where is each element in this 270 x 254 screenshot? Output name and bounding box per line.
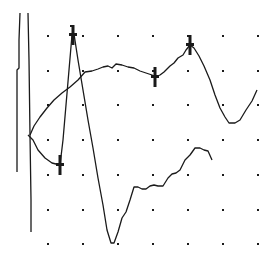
grid-dot xyxy=(222,139,224,141)
grid-dot xyxy=(47,139,49,141)
grid-dot xyxy=(117,243,119,245)
grid-dot xyxy=(47,209,49,211)
grid-dot xyxy=(117,174,119,176)
grid-dot xyxy=(152,243,154,245)
grid-dot xyxy=(222,174,224,176)
grid-dot xyxy=(257,35,259,37)
grid-dot xyxy=(47,35,49,37)
grid-dot xyxy=(117,35,119,37)
grid-dot xyxy=(187,209,189,211)
grid-dot xyxy=(152,139,154,141)
grid-dot xyxy=(117,139,119,141)
grid-dot xyxy=(82,104,84,106)
grid-dot xyxy=(82,139,84,141)
grid-dot xyxy=(117,70,119,72)
grid-dot xyxy=(257,174,259,176)
grid-dot xyxy=(222,35,224,37)
grid-dot xyxy=(257,139,259,141)
grid-dot xyxy=(187,139,189,141)
grid-dot xyxy=(47,70,49,72)
grid-dot xyxy=(187,174,189,176)
trace-left-2 xyxy=(28,13,31,232)
grid-dot xyxy=(47,174,49,176)
grid-dot xyxy=(47,243,49,245)
trace-left-1 xyxy=(17,13,20,172)
grid-dot xyxy=(82,70,84,72)
trace-2 xyxy=(28,34,212,243)
grid-dot xyxy=(82,35,84,37)
grid-dot xyxy=(152,209,154,211)
grid-dot xyxy=(187,104,189,106)
grid-dot xyxy=(257,70,259,72)
grid-dot xyxy=(187,243,189,245)
grid-dot xyxy=(222,243,224,245)
traces xyxy=(17,13,257,243)
grid-dot xyxy=(222,104,224,106)
grid-dot xyxy=(222,209,224,211)
grid-dot xyxy=(82,243,84,245)
grid-dot xyxy=(152,35,154,37)
grid-dot xyxy=(82,209,84,211)
grid-dot xyxy=(82,174,84,176)
grid-dot xyxy=(152,104,154,106)
grid-dot xyxy=(152,174,154,176)
cursor-marker[interactable] xyxy=(56,155,64,175)
waveform-plot xyxy=(0,0,270,254)
grid-dot xyxy=(257,209,259,211)
grid-dot xyxy=(257,104,259,106)
grid-dot xyxy=(117,209,119,211)
grid-dot xyxy=(187,70,189,72)
cursor-marker[interactable] xyxy=(186,35,194,55)
grid-dot xyxy=(257,243,259,245)
grid-dot xyxy=(117,104,119,106)
grid-dot xyxy=(222,70,224,72)
